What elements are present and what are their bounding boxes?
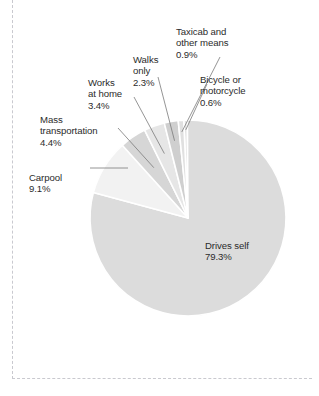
slice-label-mass-transportation-line1: Mass	[40, 114, 63, 125]
slice-value-bicycle: 0.6%	[200, 97, 278, 109]
slice-label-works-at-home-line2: at home	[88, 88, 122, 99]
slice-value-mass-transportation: 4.4%	[40, 137, 120, 149]
slice-label-bicycle-line2: motorcycle	[200, 85, 246, 96]
slice-value-taxicab: 0.9%	[176, 49, 262, 61]
slice-label-drives-self: Drives self 79.3%	[205, 228, 275, 274]
slice-label-taxicab-line2: other means	[176, 37, 228, 48]
slice-value-walks-only: 2.3%	[133, 77, 171, 89]
slice-label-taxicab-line1: Taxicab and	[176, 26, 226, 37]
slice-label-drives-self-line1: Drives self	[205, 240, 249, 251]
slice-label-works-at-home-line1: Works	[88, 77, 115, 88]
pie-chart-figure: Taxicab and other means 0.9% Bicycle or …	[0, 0, 319, 396]
slice-value-drives-self: 79.3%	[205, 251, 275, 263]
slice-label-walks-only-line2: only	[133, 65, 150, 76]
slice-label-bicycle: Bicycle or motorcycle 0.6%	[200, 62, 278, 120]
slice-label-bicycle-line1: Bicycle or	[200, 74, 241, 85]
slice-label-carpool: Carpool 9.1%	[29, 160, 85, 206]
slice-label-walks-only: Walks only 2.3%	[133, 42, 171, 100]
slice-label-mass-transportation: Mass transportation 4.4%	[40, 102, 120, 160]
slice-label-carpool-line1: Carpool	[29, 172, 62, 183]
slice-label-mass-transportation-line2: transportation	[40, 125, 98, 136]
slice-value-carpool: 9.1%	[29, 183, 85, 195]
slice-label-walks-only-line1: Walks	[133, 54, 158, 65]
